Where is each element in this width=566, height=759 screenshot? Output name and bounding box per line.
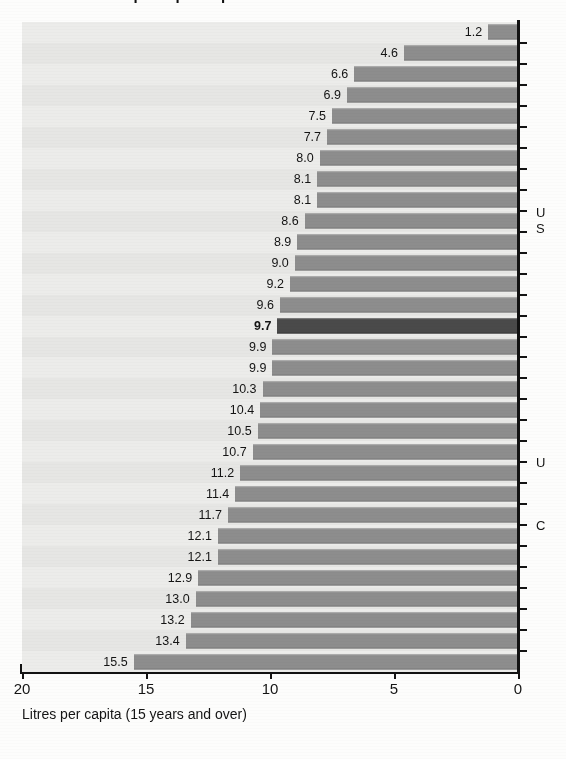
bar: [260, 402, 518, 417]
bar-highlighted: [277, 319, 518, 334]
page-title: Alcohol consumption per capita: [14, 0, 248, 3]
bar: [218, 528, 518, 543]
x-tick: [146, 672, 148, 679]
bar-row: 12.1: [22, 525, 518, 546]
bar-value-label: 13.4: [155, 634, 179, 648]
bar: [488, 25, 518, 40]
right-margin-labels: USUC: [520, 0, 566, 700]
bar: [327, 130, 518, 145]
bar-value-label: 4.6: [381, 46, 398, 60]
bar-row: 13.0: [22, 588, 518, 609]
x-tick: [270, 672, 272, 679]
bar-row: 7.7: [22, 127, 518, 148]
x-tick: [22, 672, 24, 679]
bar: [295, 256, 518, 271]
bar-value-label: 8.1: [294, 172, 311, 186]
bar-value-label: 8.6: [281, 214, 298, 228]
bar-row: 10.3: [22, 378, 518, 399]
bar: [218, 549, 518, 564]
bar-value-label: 10.3: [232, 382, 256, 396]
bar: [320, 151, 518, 166]
page-title-clip: Alcohol consumption per capita: [0, 0, 566, 14]
bar-row: 10.4: [22, 399, 518, 420]
bar-row: 11.2: [22, 462, 518, 483]
bar-row: 15.5: [22, 651, 518, 672]
bar-value-label: 9.9: [249, 340, 266, 354]
bar-row: 9.0: [22, 253, 518, 274]
bar-chart: 1.24.66.66.97.57.78.08.18.18.68.99.09.29…: [22, 22, 518, 672]
bar-value-label: 15.5: [103, 655, 127, 669]
bar: [186, 633, 518, 648]
bar: [404, 46, 518, 61]
bar-value-label: 8.1: [294, 193, 311, 207]
x-axis-tick-labels: 20151050: [0, 680, 566, 702]
bar-value-label: 11.4: [206, 487, 229, 501]
bar: [134, 654, 518, 669]
bar-value-label: 6.6: [331, 67, 348, 81]
bar-value-label: 1.2: [465, 25, 482, 39]
bar-row: 9.9: [22, 357, 518, 378]
bar-value-label: 9.9: [249, 361, 266, 375]
bar-row: 12.9: [22, 567, 518, 588]
bar-value-label: 12.1: [188, 550, 212, 564]
bar-value-label: 10.4: [230, 403, 254, 417]
country-label-clipped: S: [536, 221, 545, 236]
bar: [198, 570, 518, 585]
bar-row: 11.4: [22, 483, 518, 504]
bar: [305, 214, 518, 229]
bar: [317, 193, 518, 208]
bar: [263, 381, 518, 396]
bar: [280, 298, 518, 313]
bar: [258, 423, 518, 438]
bar: [196, 591, 518, 606]
bar-value-label: 9.2: [266, 277, 283, 291]
x-tick-label: 10: [262, 680, 279, 697]
bar-row: 9.7: [22, 316, 518, 337]
bar-row: 11.7: [22, 504, 518, 525]
bar-value-label: 6.9: [324, 88, 341, 102]
bar-value-label: 10.7: [222, 445, 246, 459]
bar-value-label: 8.0: [296, 151, 313, 165]
bar: [317, 172, 518, 187]
x-axis-caption: Litres per capita (15 years and over): [22, 706, 247, 722]
row-band: [22, 22, 518, 43]
bar-value-label: 10.5: [227, 424, 251, 438]
bar-row: 13.2: [22, 609, 518, 630]
x-tick-label: 20: [14, 680, 31, 697]
bar: [290, 277, 518, 292]
bar: [191, 612, 518, 627]
bar-value-label: 13.0: [165, 592, 189, 606]
bar-value-label: 13.2: [160, 613, 184, 627]
bar-row: 10.5: [22, 420, 518, 441]
bar: [272, 339, 518, 354]
bar: [332, 109, 518, 124]
bar-value-label: 11.7: [198, 508, 221, 522]
bar-value-label: 8.9: [274, 235, 291, 249]
bar-row: 10.7: [22, 441, 518, 462]
bar: [354, 67, 518, 82]
bar-value-label: 12.1: [188, 529, 212, 543]
bar-value-label: 7.7: [304, 130, 321, 144]
bar-row: 8.6: [22, 211, 518, 232]
x-axis-ticks: [22, 672, 518, 680]
bar-value-label: 9.6: [257, 298, 274, 312]
x-tick-label: 5: [390, 680, 398, 697]
bar-value-label: 11.2: [211, 466, 234, 480]
bar-row: 9.6: [22, 295, 518, 316]
bar-row: 8.9: [22, 232, 518, 253]
bar-row: 12.1: [22, 546, 518, 567]
bar: [253, 444, 518, 459]
bar: [272, 360, 518, 375]
bar: [235, 486, 518, 501]
bar-value-label: 7.5: [309, 109, 326, 123]
bar-value-label: 12.9: [168, 571, 192, 585]
bar: [228, 507, 518, 522]
bar-value-label: 9.0: [271, 256, 288, 270]
bar-row: 1.2: [22, 22, 518, 43]
bar: [347, 88, 518, 103]
x-tick-label: 15: [138, 680, 155, 697]
bar-row: 7.5: [22, 106, 518, 127]
bar-value-label: 9.7: [254, 319, 271, 333]
bar-row: 6.6: [22, 64, 518, 85]
bar-row: 8.0: [22, 148, 518, 169]
